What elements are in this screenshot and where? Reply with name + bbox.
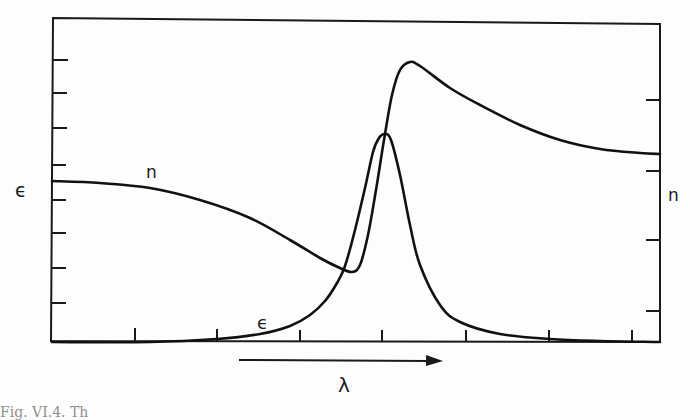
figure-caption: Fig. VI.4. Th <box>0 404 88 420</box>
x-axis-label: λ <box>338 373 350 397</box>
right-axis-label: n <box>668 185 679 205</box>
n-curve-label: n <box>146 162 157 182</box>
epsilon-curve-label: ϵ <box>257 312 268 333</box>
n-curve <box>52 62 660 272</box>
right-axis-ticks <box>646 100 660 311</box>
epsilon-curve <box>52 134 660 342</box>
lambda-direction-arrow <box>239 355 443 366</box>
left-axis-label: ϵ <box>15 179 27 201</box>
plot-frame <box>51 18 660 342</box>
